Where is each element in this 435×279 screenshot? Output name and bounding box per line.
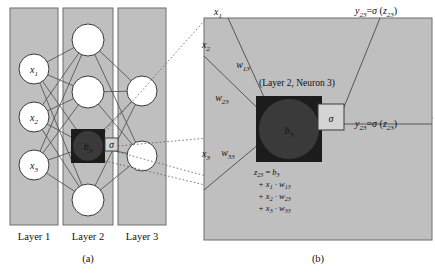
input-node-1: x1 xyxy=(19,54,49,84)
output-node-2 xyxy=(127,141,157,171)
neuron-title: (Layer 2, Neuron 3) xyxy=(259,78,335,89)
figure-neural-network-diagram: x1 x2 x3 b3 σ Layer 1 Layer 2 Layer 3 (a xyxy=(0,0,435,279)
hidden-node-1 xyxy=(72,24,104,56)
input-node-3: x3 xyxy=(19,150,49,180)
formula-line-1: z23 = b3 xyxy=(253,167,280,178)
output-node-1 xyxy=(127,76,157,106)
input-node-2: x2 xyxy=(19,102,49,132)
panel-b: x1 x2 x3 w13 w23 w33 (Layer 2, Neuron 3)… xyxy=(201,5,432,265)
hidden-node-2 xyxy=(72,76,104,108)
layer-1-label: Layer 1 xyxy=(18,231,50,242)
activation-unit-b: σ xyxy=(318,104,344,130)
layer-2-label: Layer 2 xyxy=(72,231,104,242)
panel-b-caption: (b) xyxy=(312,253,325,265)
panel-a-caption: (a) xyxy=(82,253,94,265)
layer-3-column xyxy=(118,8,166,225)
diagram-canvas: x1 x2 x3 b3 σ Layer 1 Layer 2 Layer 3 (a xyxy=(0,0,435,279)
layer-3-label: Layer 3 xyxy=(126,231,158,242)
hidden-node-4 xyxy=(72,184,104,216)
neuron-body: b3 xyxy=(256,96,322,162)
